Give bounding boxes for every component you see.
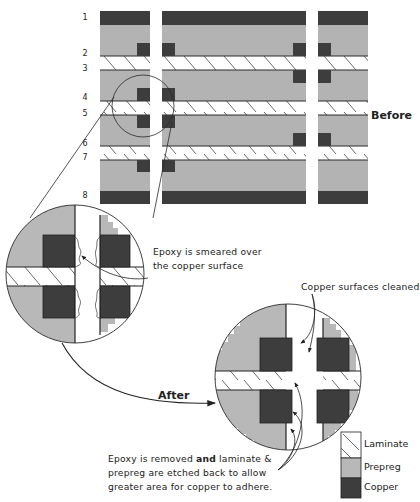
layer-number-8: 8 — [80, 191, 90, 200]
layer-number-5: 5 — [80, 109, 90, 118]
epoxy-smeared-note-line1: Epoxy is smeared over — [153, 245, 262, 259]
epoxy-smeared-note-line2: the copper surface — [153, 259, 243, 273]
after-label: After — [158, 389, 189, 402]
epoxy-removed-text-and: and — [196, 453, 216, 464]
before-label: Before — [371, 109, 412, 122]
magnified-before — [0, 200, 160, 350]
copper-cleaned-note: Copper surfaces cleaned — [301, 280, 420, 294]
epoxy-removed-note-line3: greater area for copper to adhere. — [108, 480, 272, 494]
layer-number-1: 1 — [80, 13, 90, 22]
layer-number-6: 6 — [80, 139, 90, 148]
after-arrow — [62, 343, 215, 403]
legend-prepreg: Prepreg — [364, 461, 401, 472]
layer-number-3: 3 — [80, 64, 90, 73]
epoxy-removed-note-line1: Epoxy is removed and laminate & — [108, 452, 272, 466]
legend-laminate: Laminate — [364, 438, 408, 449]
legend-swatches — [341, 432, 361, 498]
layer-number-7: 7 — [80, 153, 90, 162]
layer-number-4: 4 — [80, 93, 90, 102]
epoxy-removed-note-line2: prepreg are etched back to allow — [108, 466, 266, 480]
layer-number-2: 2 — [80, 49, 90, 58]
before-cross-section — [100, 11, 368, 204]
epoxy-removed-text-c: laminate & — [216, 453, 272, 464]
legend-copper: Copper — [364, 481, 398, 492]
epoxy-removed-text-a: Epoxy is removed — [108, 453, 196, 464]
